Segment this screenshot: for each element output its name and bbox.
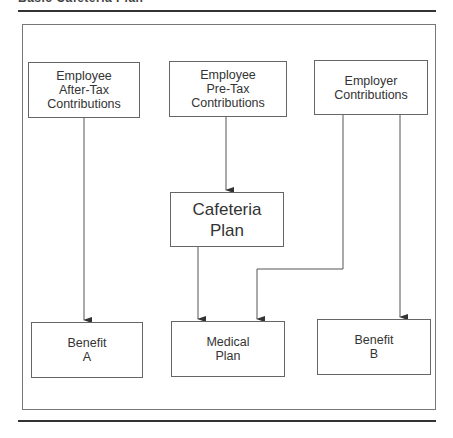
node-benefit-a: Benefit A [31,322,143,378]
node-benefit-b: Benefit B [317,319,431,375]
node-cafeteria-plan: Cafeteria Plan [170,192,284,247]
node-label: Cafeteria Plan [193,199,262,241]
node-label: Employer Contributions [334,74,408,102]
node-label: Employee Pre-Tax Contributions [191,68,265,110]
node-label: Benefit A [68,336,107,364]
node-employee-after-tax: Employee After-Tax Contributions [28,62,140,118]
node-employer-contributions: Employer Contributions [314,60,428,115]
node-label: Benefit B [355,333,394,361]
node-employee-pre-tax: Employee Pre-Tax Contributions [169,61,287,117]
node-medical-plan: Medical Plan [171,321,285,377]
node-label: Medical Plan [206,335,249,363]
node-label: Employee After-Tax Contributions [47,69,121,111]
